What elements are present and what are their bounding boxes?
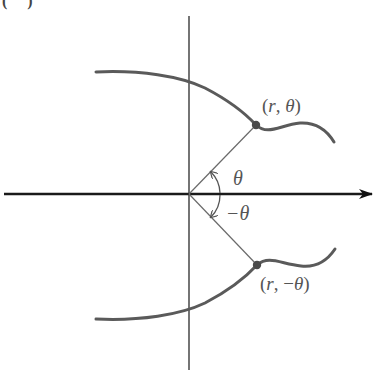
theta-symbol: θ	[285, 95, 294, 116]
point-upper	[252, 121, 260, 129]
comma-minus: , −	[274, 273, 294, 294]
r-symbol: r	[268, 95, 275, 116]
neg-theta-angle-label: −θ	[226, 203, 249, 223]
theta-symbol: θ	[294, 273, 303, 294]
neg-theta-arc-icon	[211, 195, 220, 217]
polar-symmetry-diagram	[0, 0, 385, 376]
point-lower	[253, 261, 261, 269]
paren-close: )	[303, 273, 309, 294]
paren-close: )	[295, 95, 301, 116]
r-symbol: r	[266, 273, 273, 294]
theta-arc-icon	[211, 172, 220, 193]
ray-upper	[189, 125, 256, 194]
point-lower-label: (r, −θ)	[260, 274, 310, 293]
comma: ,	[276, 95, 286, 116]
theta-angle-label: θ	[233, 168, 243, 188]
point-upper-label: (r, θ)	[262, 96, 301, 115]
